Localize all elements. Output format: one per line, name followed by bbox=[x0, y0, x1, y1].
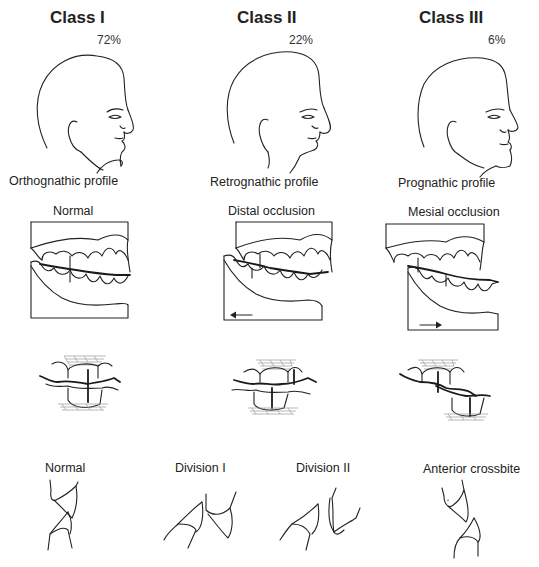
class-ii-molar-relationship bbox=[232, 358, 322, 420]
distal-occlusion-dental-model bbox=[222, 220, 332, 325]
normal-occlusion-label: Normal bbox=[53, 204, 93, 218]
class-iii-molar-relationship bbox=[400, 358, 495, 428]
anterior-crossbite-label: Anterior crossbite bbox=[423, 462, 520, 476]
retrognathic-profile-label: Retrognathic profile bbox=[210, 175, 318, 189]
class-i-molar-relationship bbox=[38, 352, 123, 414]
retrognathic-profile-head bbox=[222, 48, 332, 173]
arrow-left-icon bbox=[230, 312, 236, 319]
prognathic-profile-label: Prognathic profile bbox=[398, 176, 495, 190]
class-iii-percentage: 6% bbox=[488, 33, 505, 47]
class-i-incisor-label: Normal bbox=[45, 461, 85, 475]
arrow-right-icon bbox=[436, 322, 442, 329]
orthognathic-profile-head bbox=[25, 48, 135, 173]
class-ii-title: Class II bbox=[237, 8, 297, 28]
division-i-label: Division I bbox=[175, 461, 226, 475]
distal-occlusion-label: Distal occlusion bbox=[228, 204, 315, 218]
normal-occlusion-dental-model bbox=[28, 220, 133, 320]
mesial-occlusion-dental-model bbox=[384, 222, 499, 332]
anterior-crossbite-incisor-relationship bbox=[438, 478, 498, 558]
orthognathic-profile-label: Orthognathic profile bbox=[9, 174, 118, 188]
class-iii-title: Class III bbox=[419, 8, 483, 28]
division-i-incisor-relationship bbox=[162, 480, 242, 550]
division-ii-incisor-relationship bbox=[278, 488, 358, 558]
class-ii-percentage: 22% bbox=[289, 33, 313, 47]
class-i-title: Class I bbox=[50, 8, 105, 28]
division-ii-label: Division II bbox=[296, 461, 350, 475]
class-i-percentage: 72% bbox=[97, 33, 121, 47]
mesial-occlusion-label: Mesial occlusion bbox=[408, 205, 500, 219]
prognathic-profile-head bbox=[412, 52, 522, 177]
normal-incisor-relationship bbox=[44, 476, 84, 551]
